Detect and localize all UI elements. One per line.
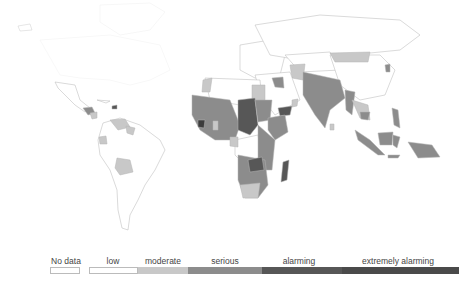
egypt bbox=[252, 85, 265, 100]
cuba bbox=[97, 100, 110, 103]
legend-swatch-extremely-alarming bbox=[342, 267, 459, 274]
timor bbox=[388, 155, 400, 158]
madagascar bbox=[281, 160, 289, 182]
north-america bbox=[40, 35, 170, 85]
legend-swatch-moderate bbox=[138, 267, 188, 274]
alaska-islands bbox=[18, 24, 32, 31]
map-legend: No data low moderate serious alarming ex… bbox=[0, 256, 470, 276]
sri-lanka bbox=[330, 124, 334, 130]
legend-label-moderate: moderate bbox=[145, 256, 181, 266]
legend-swatch-no-data bbox=[50, 267, 80, 274]
world-map bbox=[0, 0, 470, 250]
legend-label-alarming: alarming bbox=[283, 256, 316, 266]
mexico bbox=[55, 82, 90, 112]
north-korea bbox=[385, 64, 390, 72]
nicaragua bbox=[90, 112, 97, 119]
legend-swatch-alarming bbox=[262, 267, 342, 274]
yemen bbox=[278, 106, 292, 116]
morocco bbox=[202, 78, 212, 92]
legend-label-extremely-alarming: extremely alarming bbox=[362, 256, 434, 266]
mongolia bbox=[330, 52, 370, 62]
haiti bbox=[112, 105, 117, 109]
cameroon-gabon bbox=[230, 137, 238, 147]
legend-label-low: low bbox=[107, 256, 120, 266]
philippines bbox=[392, 108, 400, 128]
ghana bbox=[213, 121, 218, 130]
sulawesi bbox=[393, 135, 400, 148]
legend-swatch-serious bbox=[188, 267, 262, 274]
papua bbox=[408, 142, 440, 158]
chad-car bbox=[238, 98, 258, 135]
legend-swatch-low bbox=[89, 267, 138, 274]
south-america bbox=[98, 118, 165, 230]
legend-label-serious: serious bbox=[211, 256, 238, 266]
legend-label-no-data: No data bbox=[51, 256, 81, 266]
zambia-zimbabwe bbox=[248, 157, 264, 172]
borneo bbox=[378, 132, 393, 145]
india bbox=[303, 72, 345, 128]
ecuador bbox=[99, 136, 107, 144]
greenland bbox=[100, 3, 165, 35]
oman bbox=[292, 99, 298, 107]
south-africa bbox=[240, 183, 260, 198]
cambodia bbox=[360, 112, 370, 120]
guinea-sl bbox=[198, 120, 205, 128]
